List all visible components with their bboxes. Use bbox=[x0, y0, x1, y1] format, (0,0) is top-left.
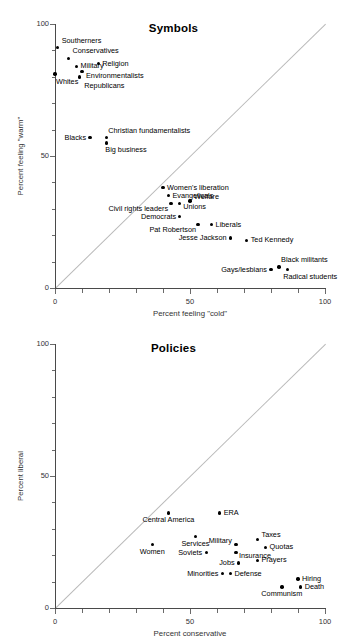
data-point-label: Big business bbox=[105, 146, 146, 153]
data-point bbox=[167, 194, 170, 197]
data-point bbox=[194, 535, 197, 538]
data-point-label: Religion bbox=[102, 60, 128, 67]
x-tick-label: 100 bbox=[305, 297, 345, 306]
data-point-label: Christian fundamentalists bbox=[108, 127, 190, 134]
data-point-label: Central America bbox=[142, 516, 194, 523]
data-point-label: Civil rights leaders bbox=[108, 205, 168, 212]
panel-symbols: Symbols050100050100Percent feeling "cold… bbox=[0, 0, 347, 320]
data-point bbox=[80, 70, 83, 73]
data-point-label: Welfare bbox=[194, 193, 219, 200]
x-tick bbox=[271, 609, 272, 613]
y-tick bbox=[52, 262, 56, 263]
x-tick bbox=[82, 609, 83, 613]
y-tick bbox=[52, 182, 56, 183]
data-point-label: Military bbox=[209, 537, 232, 544]
y-tick bbox=[52, 370, 56, 371]
data-point-label: Quotas bbox=[270, 544, 294, 551]
x-tick bbox=[325, 289, 326, 294]
data-point bbox=[169, 202, 172, 205]
data-point bbox=[264, 546, 267, 549]
data-point-label: Pat Robertson bbox=[149, 226, 196, 233]
data-point bbox=[53, 72, 56, 75]
data-point-label: Liberals bbox=[216, 221, 242, 228]
data-point bbox=[56, 46, 59, 49]
y-tick bbox=[52, 423, 56, 424]
data-point bbox=[296, 577, 299, 580]
y-tick bbox=[52, 529, 56, 530]
data-point bbox=[67, 57, 70, 60]
data-point bbox=[229, 236, 232, 239]
data-point bbox=[237, 561, 240, 564]
y-tick bbox=[52, 397, 56, 398]
data-point bbox=[161, 186, 164, 189]
y-tick-label: 100 bbox=[21, 19, 49, 28]
y-tick-label: 0 bbox=[21, 283, 49, 292]
data-point-label: Death bbox=[305, 583, 324, 590]
x-tick bbox=[298, 609, 299, 613]
data-point bbox=[286, 268, 289, 271]
x-tick bbox=[244, 289, 245, 293]
data-point bbox=[151, 543, 154, 546]
y-tick bbox=[52, 77, 56, 78]
data-point-label: Minorities bbox=[187, 570, 218, 577]
y-tick bbox=[52, 130, 56, 131]
x-tick bbox=[298, 289, 299, 293]
data-point bbox=[78, 75, 81, 78]
data-point bbox=[88, 136, 91, 139]
data-point bbox=[75, 65, 78, 68]
data-point bbox=[229, 572, 232, 575]
x-tick bbox=[271, 289, 272, 293]
x-tick bbox=[244, 609, 245, 613]
data-point-label: Unions bbox=[183, 203, 206, 210]
data-point bbox=[234, 543, 237, 546]
x-tick-label: 50 bbox=[170, 617, 210, 626]
data-point-label: Prayers bbox=[262, 557, 287, 564]
data-point bbox=[280, 585, 283, 588]
x-tick-label: 0 bbox=[35, 297, 75, 306]
y-tick bbox=[50, 156, 55, 157]
y-tick bbox=[52, 209, 56, 210]
x-axis-label: Percent feeling "cold" bbox=[55, 309, 325, 318]
data-point-label: Gays/lesbians bbox=[221, 266, 267, 273]
data-point bbox=[196, 223, 199, 226]
data-point-label: Blacks bbox=[65, 134, 87, 141]
y-tick bbox=[50, 476, 55, 477]
data-point-label: Jesse Jackson bbox=[179, 234, 227, 241]
y-tick-label: 100 bbox=[21, 339, 49, 348]
x-axis-label: Percent conservative bbox=[55, 629, 325, 638]
x-tick bbox=[325, 609, 326, 614]
y-tick bbox=[52, 50, 56, 51]
data-point-label: Whites bbox=[56, 79, 78, 86]
y-tick-label: 50 bbox=[21, 151, 49, 160]
x-tick bbox=[190, 609, 191, 614]
x-tick-label: 100 bbox=[305, 617, 345, 626]
y-tick-label: 50 bbox=[21, 471, 49, 480]
x-tick bbox=[136, 609, 137, 613]
data-point-label: Democrats bbox=[141, 213, 176, 220]
y-tick bbox=[52, 555, 56, 556]
x-tick bbox=[136, 289, 137, 293]
data-point-label: Radical students bbox=[283, 273, 337, 280]
data-point-label: Environmentalists bbox=[86, 72, 144, 79]
y-axis-line bbox=[55, 344, 56, 609]
data-point bbox=[256, 559, 259, 562]
x-tick bbox=[217, 609, 218, 613]
y-axis-label: Percent feeling "warm" bbox=[16, 24, 25, 288]
data-point-label: Women bbox=[140, 548, 165, 555]
x-tick bbox=[109, 609, 110, 613]
y-tick bbox=[50, 344, 55, 345]
x-tick bbox=[55, 289, 56, 294]
y-axis-line bbox=[55, 24, 56, 289]
data-point bbox=[256, 538, 259, 541]
data-point-label: Military bbox=[81, 63, 104, 70]
x-tick bbox=[163, 289, 164, 293]
data-point-label: Taxes bbox=[262, 532, 281, 539]
y-tick bbox=[52, 103, 56, 104]
x-tick bbox=[190, 289, 191, 294]
data-point-label: Southerners bbox=[62, 37, 102, 44]
data-point bbox=[105, 136, 108, 139]
x-tick bbox=[217, 289, 218, 293]
y-axis-label: Percent liberal bbox=[16, 344, 25, 608]
y-tick-label: 0 bbox=[21, 603, 49, 612]
data-point-label: ERA bbox=[224, 509, 239, 516]
